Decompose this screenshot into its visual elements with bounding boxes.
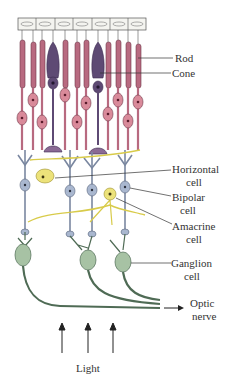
label-bipolar-cell: cell	[180, 204, 196, 216]
optic-nerve-arrow-icon	[164, 305, 184, 311]
light-arrows	[59, 323, 116, 353]
rod-cells	[17, 30, 143, 150]
horizontal-cell	[30, 150, 140, 183]
arrow-up-icon	[59, 323, 65, 353]
pigment-epithelium	[18, 18, 146, 30]
label-horizontal: Horizontal	[172, 163, 219, 175]
label-amacrine: Amacrine	[172, 220, 215, 232]
label-ganglion-cell: cell	[184, 270, 200, 282]
arrow-up-icon	[110, 323, 116, 353]
label-ganglion: Ganglion	[171, 257, 212, 269]
label-amacrine-cell: cell	[186, 233, 202, 245]
label-rod: Rod	[175, 52, 194, 64]
label-horizontal-cell: cell	[186, 176, 202, 188]
amacrine-cell	[28, 188, 145, 225]
label-optic-nerve: nerve	[192, 310, 217, 322]
label-cone: Cone	[172, 67, 195, 79]
label-bipolar: Bipolar	[172, 191, 205, 203]
retina-diagram: Rod Cone Horizontal cell Bipolar cell Am…	[0, 0, 231, 389]
ganglion-cells	[15, 232, 160, 308]
arrow-up-icon	[85, 323, 91, 353]
label-optic: Optic	[190, 297, 215, 309]
label-light: Light	[76, 362, 100, 374]
